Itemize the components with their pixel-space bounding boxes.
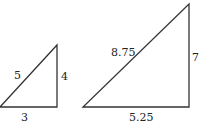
small-vertical-label: 4 [61, 70, 68, 83]
large-vertical-label: 7 [192, 51, 199, 64]
small-triangle-shape [0, 45, 57, 107]
small-triangle: 5 4 3 [0, 45, 68, 124]
small-base-label: 3 [21, 111, 28, 124]
small-hypotenuse-label: 5 [14, 69, 21, 82]
diagram-canvas: 5 4 3 8.75 7 5.25 [0, 0, 200, 129]
large-triangle-shape [83, 4, 189, 107]
large-base-label: 5.25 [129, 111, 154, 124]
large-triangle: 8.75 7 5.25 [83, 4, 199, 124]
large-hypotenuse-label: 8.75 [111, 46, 136, 59]
